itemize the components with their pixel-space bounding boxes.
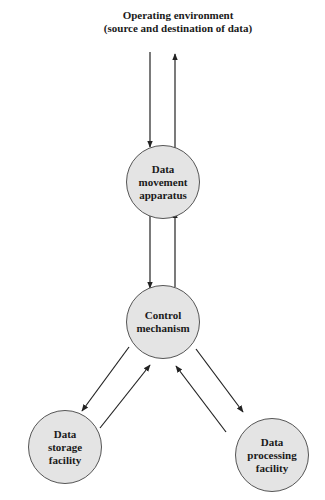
arrow-control-to-storage [82,347,129,411]
node-label: Data movement apparatus [139,163,188,202]
arrow-storage-to-control [100,365,150,428]
node-data-processing-facility: Data processing facility [235,418,309,492]
node-label: Data processing facility [247,436,296,475]
node-label: Data storage facility [48,428,82,467]
node-control-mechanism: Control mechanism [126,285,200,359]
node-label: Control mechanism [136,309,189,335]
node-data-movement-apparatus: Data movement apparatus [126,145,200,219]
arrow-processing-to-control [176,366,226,432]
node-data-storage-facility: Data storage facility [28,410,102,484]
